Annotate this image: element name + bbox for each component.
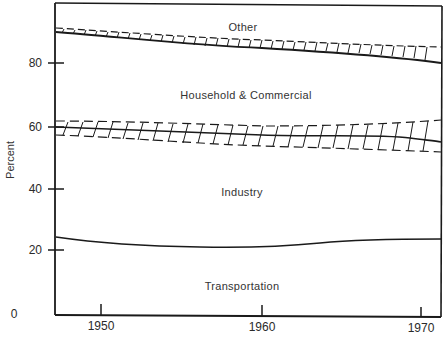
transportation-boundary [56,237,441,247]
y-axis-title: Percent [4,141,16,179]
industry-lower-dashed [56,135,441,152]
x-tick-label-1970: 1970 [408,321,435,335]
region-label-household-commercial: Household & Commercial [180,89,311,101]
y-ticks [48,63,64,250]
region-label-other: Other [228,21,257,33]
x-tick-label-1950: 1950 [88,319,115,333]
y-tick-label-20: 20 [29,243,43,257]
y-tick-label-40: 40 [29,182,43,196]
x-axis [55,315,441,317]
plot-frame [55,3,442,317]
y-tick-label-80: 80 [29,56,43,70]
y-tick-label-60: 60 [29,120,43,134]
y-tick-label-0: 0 [11,307,18,321]
x-tick-label-1960: 1960 [249,320,276,334]
right-border [441,6,442,317]
household-boundary [56,32,441,63]
stacked-area-chart: 80 60 40 20 0 1950 1960 1970 Percent [0,0,447,337]
industry-boundary [56,127,441,142]
top-border [55,3,442,6]
region-label-industry: Industry [221,186,263,198]
region-label-transportation: Transportation [205,280,280,292]
